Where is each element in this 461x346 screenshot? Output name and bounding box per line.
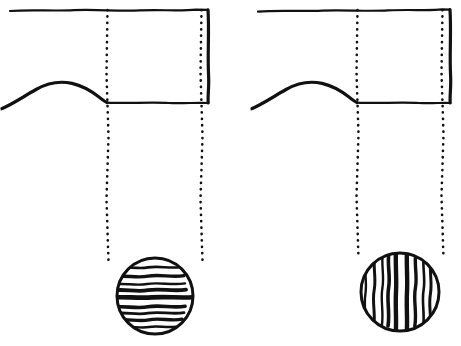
band-h-6 bbox=[113, 312, 184, 313]
band-h-2 bbox=[113, 275, 184, 277]
band-v-3 bbox=[382, 252, 383, 326]
right-panel-bottom-edge bbox=[357, 103, 450, 104]
right-panel-right-edge bbox=[450, 10, 451, 103]
band-v-6 bbox=[423, 254, 424, 328]
band-h-3 bbox=[112, 283, 185, 284]
band-v-4 bbox=[388, 252, 389, 326]
figure-root bbox=[0, 0, 461, 346]
left-panel-top-edge bbox=[10, 10, 208, 11]
figure-canvas bbox=[0, 0, 461, 346]
band-v-5 bbox=[415, 252, 417, 326]
band-h-4 bbox=[112, 289, 186, 290]
left-panel-right-edge bbox=[208, 10, 209, 103]
band-h-5 bbox=[112, 306, 185, 308]
band-v-2 bbox=[373, 254, 375, 328]
left-panel-bottom-edge bbox=[107, 103, 208, 104]
right-sphere bbox=[361, 250, 439, 332]
